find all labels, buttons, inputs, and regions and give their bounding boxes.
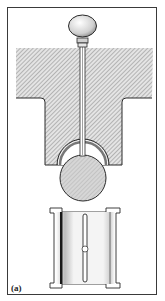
push-rod (80, 46, 85, 156)
bearing-diagram (0, 0, 165, 301)
split-sleeve-bearing (50, 208, 120, 288)
figure-label: (a) (11, 283, 22, 293)
knob (69, 15, 97, 47)
ball (60, 155, 106, 201)
